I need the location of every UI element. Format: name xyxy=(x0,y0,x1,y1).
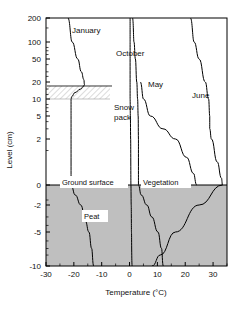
y-tick-label: 0 xyxy=(37,181,42,190)
y-axis-title: Level (cm) xyxy=(5,131,14,169)
svg-text:Peat: Peat xyxy=(84,212,100,221)
y-tick-label: -5 xyxy=(34,228,42,237)
annotation-peat: Peat xyxy=(82,210,108,222)
y-tick-label: 5 xyxy=(37,112,42,121)
curve-label-october: October xyxy=(116,49,145,58)
annotation-vegetation: Vegetation xyxy=(141,176,191,188)
temperature-profile-chart: 200100502010520-2-5-10 -30-20-100102030 … xyxy=(0,0,248,311)
annotation-snow-pack-line1: Snow xyxy=(114,103,134,112)
snow-pack-region xyxy=(47,86,112,99)
svg-text:Ground surface: Ground surface xyxy=(62,178,114,187)
y-tick-label: 100 xyxy=(28,38,42,47)
x-tick-label: 10 xyxy=(153,270,162,279)
x-tick-label: 30 xyxy=(209,270,218,279)
svg-text:Vegetation: Vegetation xyxy=(143,178,178,187)
annotation-snow-pack-line2: pack xyxy=(114,113,132,122)
curve-label-june: June xyxy=(192,91,210,100)
y-tick-label: -2 xyxy=(34,201,42,210)
peat-region xyxy=(46,185,227,266)
x-tick-label: -10 xyxy=(96,270,108,279)
annotation-ground-surface: Ground surface xyxy=(60,176,128,188)
y-tick-label: 200 xyxy=(28,14,42,23)
chart-figure: 200100502010520-2-5-10 -30-20-100102030 … xyxy=(0,0,248,311)
x-tick-label: -20 xyxy=(68,270,80,279)
x-tick-label: 0 xyxy=(127,270,132,279)
curve-label-may: May xyxy=(148,80,163,89)
y-tick-label: 10 xyxy=(32,95,41,104)
x-axis-title: Temperature (°C) xyxy=(105,288,167,297)
y-tick-label: 20 xyxy=(32,78,41,87)
y-tick-label: 2 xyxy=(37,135,42,144)
x-tick-label: -30 xyxy=(40,270,52,279)
curve-label-january: January xyxy=(72,26,100,35)
y-tick-label: 50 xyxy=(32,55,41,64)
x-tick-label: 20 xyxy=(181,270,190,279)
